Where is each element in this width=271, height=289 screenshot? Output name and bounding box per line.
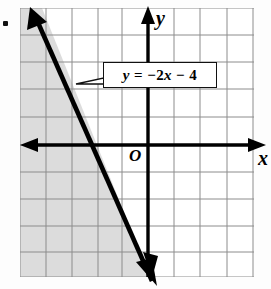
bullet-marker xyxy=(3,21,8,26)
equation-equals: = xyxy=(134,67,143,83)
x-axis-label: x xyxy=(258,148,268,168)
y-axis-label: y xyxy=(156,8,165,28)
equation-term1: −2 xyxy=(147,67,164,83)
graph-svg xyxy=(0,0,271,289)
equation-minus: − xyxy=(176,67,185,83)
equation-term2: 4 xyxy=(189,67,197,83)
equation-label: y = −2x − 4 xyxy=(123,67,197,84)
coordinate-graph-figure xyxy=(0,0,271,289)
equation-y: y xyxy=(123,67,130,83)
origin-label: O xyxy=(129,147,141,164)
equation-x: x xyxy=(164,67,172,83)
equation-callout-box: y = −2x − 4 xyxy=(103,62,217,88)
